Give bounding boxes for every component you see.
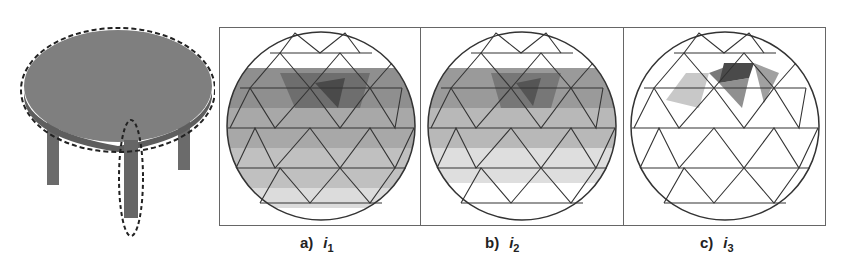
panel-i1 [219,27,422,226]
caption-label: b) [485,234,499,251]
caption-c: c)i3 [700,234,734,254]
caption-label: a) [300,234,313,251]
tabletop [24,30,212,142]
caption-sub: 2 [513,242,519,254]
caption-b: b)i2 [485,234,519,254]
panel-i3 [623,27,826,226]
geodesic-sphere-i3 [624,28,824,224]
caption-sub: 3 [728,242,734,254]
geodesic-sphere-i1 [220,28,420,224]
geodesic-sphere-i2 [421,28,621,224]
caption-a: a)i1 [300,234,334,254]
table-illustration [0,0,215,270]
caption-sub: 1 [328,242,334,254]
panel-i2 [420,27,624,226]
caption-label: c) [700,234,713,251]
